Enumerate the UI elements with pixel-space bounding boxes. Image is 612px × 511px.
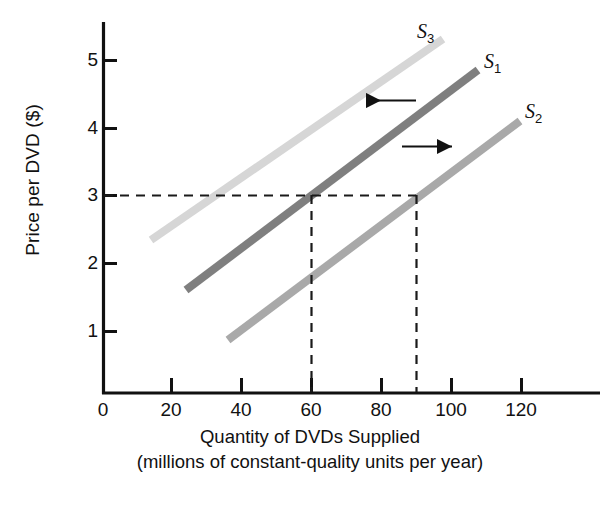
- curve-label-s3-subscript: 3: [427, 31, 434, 46]
- curve-label-s3-text: S: [417, 20, 427, 42]
- y-tick-label-2: 2: [58, 252, 98, 274]
- x-tick-label-20: 20: [141, 399, 201, 421]
- curve-label-s3: S3: [417, 20, 434, 46]
- curve-label-s1-text: S: [484, 50, 494, 72]
- x-axis-ticks: [172, 378, 522, 393]
- x-tick-label-80: 80: [351, 399, 411, 421]
- curve-label-s2: S2: [525, 100, 542, 126]
- supply-curve-figure: Price per DVD ($) 5 4 3 2 1 0 20 40 60 8…: [0, 0, 612, 511]
- y-tick-label-3: 3: [58, 184, 98, 206]
- y-axis-title: Price per DVD ($): [22, 30, 44, 330]
- x-tick-label-40: 40: [211, 399, 271, 421]
- curve-label-s2-text: S: [525, 100, 535, 122]
- x-axis-title-line1: Quantity of DVDs Supplied: [200, 426, 420, 447]
- x-tick-label-120: 120: [491, 399, 551, 421]
- x-axis-title: Quantity of DVDs Supplied (millions of c…: [60, 424, 560, 474]
- y-tick-label-4: 4: [58, 117, 98, 139]
- y-tick-label-1: 1: [58, 320, 98, 342]
- curve-label-s1-subscript: 1: [494, 61, 501, 76]
- y-tick-label-5: 5: [58, 49, 98, 71]
- curve-label-s2-subscript: 2: [535, 111, 542, 126]
- x-tick-label-100: 100: [421, 399, 481, 421]
- curve-label-s1: S1: [484, 50, 501, 76]
- x-axis-title-line2: (millions of constant-quality units per …: [60, 449, 560, 474]
- x-tick-label-60: 60: [281, 399, 341, 421]
- x-tick-label-0: 0: [73, 399, 133, 421]
